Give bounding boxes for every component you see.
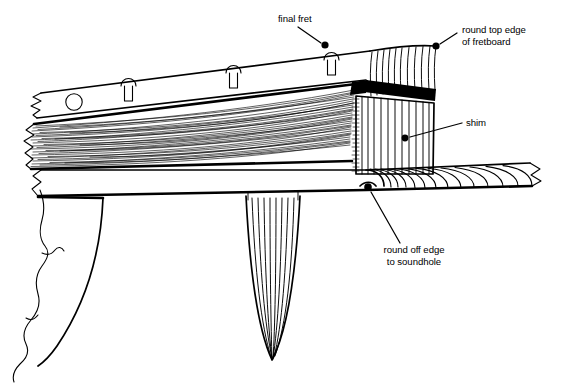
fretboard-end-grain-line bbox=[428, 46, 430, 90]
break-line-soundboard-left bbox=[32, 170, 41, 196]
callout-shim-leader bbox=[410, 123, 462, 137]
soundboard-bottom-surface bbox=[38, 186, 532, 196]
fret-tang-3-final bbox=[328, 60, 336, 75]
callout-shim: shim bbox=[402, 117, 487, 141]
callout-round-top-edge-label-line1: round top edge bbox=[462, 24, 526, 35]
heel-curve bbox=[38, 198, 103, 366]
callout-round-off-edge-label-line2: to soundhole bbox=[387, 256, 441, 267]
fretboard-group bbox=[31, 51, 370, 118]
fret-marker-dot bbox=[66, 94, 82, 110]
shim-block-group bbox=[352, 96, 434, 174]
callout-final-fret: final fret bbox=[278, 13, 329, 49]
fret-tang-2 bbox=[230, 73, 238, 88]
brace-outline bbox=[246, 196, 300, 360]
callout-round-off-edge: round off edge to soundhole bbox=[364, 183, 444, 267]
callout-shim-dot bbox=[402, 135, 409, 142]
callout-round-top-edge: round top edge of fretboard bbox=[432, 24, 525, 50]
fret-tang-1 bbox=[125, 86, 133, 101]
callout-round-off-edge-label-line1: round off edge bbox=[383, 244, 444, 255]
soundboard-rounded-edge-arcs bbox=[366, 166, 532, 188]
fretboard-end-shoulder-wedge bbox=[350, 80, 368, 95]
callout-round-top-edge-leader bbox=[440, 33, 457, 44]
heel-inner-break-detail bbox=[42, 247, 64, 254]
callout-round-off-edge-leader bbox=[371, 192, 400, 243]
heel-top-bar bbox=[38, 197, 103, 198]
callout-final-fret-dot bbox=[321, 41, 328, 48]
neck-shaft-grain-lines bbox=[31, 90, 355, 167]
shim-block-grain-lines bbox=[362, 97, 429, 175]
fretboard-end-grain-group bbox=[350, 46, 436, 101]
fretboard-end-grain-line bbox=[434, 46, 436, 90]
fretboard-top-surface bbox=[41, 51, 370, 93]
brace-grain-lines bbox=[252, 198, 294, 359]
callout-round-top-edge-label-line2: of fretboard bbox=[462, 36, 510, 47]
fretboard-end-grain-line bbox=[407, 48, 409, 93]
fretboard-end-grain-line bbox=[414, 47, 416, 91]
callout-round-top-edge-dot bbox=[432, 42, 439, 49]
callout-shim-label: shim bbox=[466, 117, 486, 128]
fretboard-end-top-arc bbox=[370, 46, 436, 51]
heel-inner-break-detail-2 bbox=[26, 315, 38, 319]
break-line-fretboard-left bbox=[31, 93, 41, 118]
neck-shaft-group bbox=[24, 84, 356, 169]
break-line-heel-left bbox=[13, 190, 48, 382]
technical-illustration-figure: final fret round top edge of fretboard s… bbox=[0, 0, 562, 385]
callout-final-fret-leader bbox=[298, 27, 321, 43]
figure-canvas: final fret round top edge of fretboard s… bbox=[0, 0, 562, 385]
heel-group bbox=[13, 190, 103, 382]
fretboard-end-grain-line bbox=[421, 47, 423, 92]
brace-group bbox=[246, 192, 300, 360]
callout-round-off-edge-dot bbox=[364, 183, 372, 191]
callout-final-fret-label: final fret bbox=[278, 13, 312, 24]
